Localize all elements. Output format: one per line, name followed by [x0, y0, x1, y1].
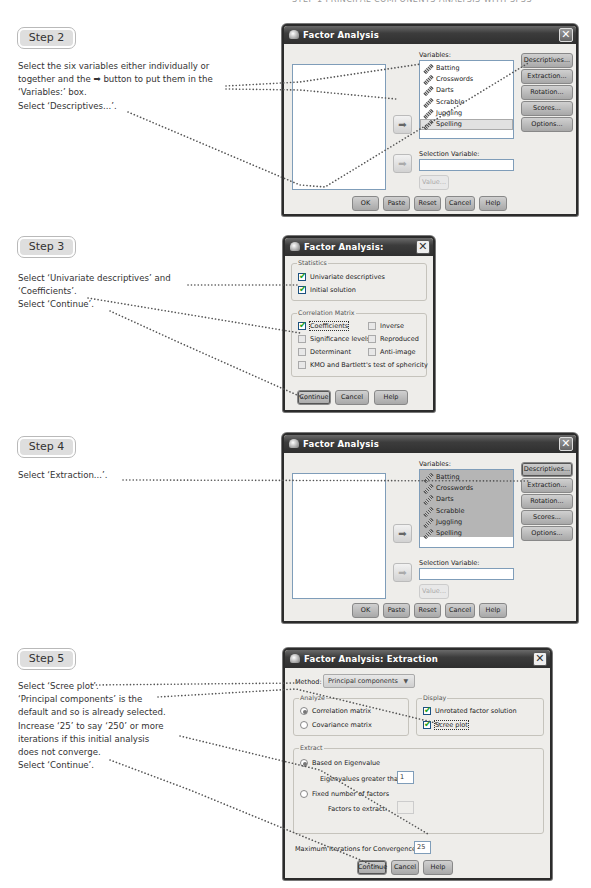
variables-list[interactable]: Batting Crosswords Darts Scrabble Juggli…	[419, 60, 514, 139]
checkbox-checked-icon	[423, 707, 431, 715]
cancel-button[interactable]: Cancel	[445, 603, 475, 618]
arrow-right-icon: ➡	[398, 567, 406, 578]
selection-variable-field[interactable]	[419, 568, 514, 580]
reset-button[interactable]: Reset	[414, 603, 441, 618]
initial-solution-checkbox[interactable]: Initial solution	[298, 285, 356, 295]
list-item[interactable]: Scrabble	[420, 97, 513, 108]
selection-variable-field[interactable]	[419, 159, 514, 171]
app-icon	[289, 439, 299, 448]
close-icon[interactable]: ✕	[416, 240, 430, 254]
list-item[interactable]: Spelling	[420, 528, 513, 539]
rotation-button[interactable]: Rotation...	[521, 494, 573, 509]
cancel-button[interactable]: Cancel	[445, 196, 475, 211]
move-selection-variable-button[interactable]: ➡	[393, 563, 412, 582]
close-icon[interactable]: ✕	[533, 652, 547, 666]
based-on-eigenvalue-radio[interactable]: Based on Eigenvalue	[300, 758, 380, 768]
dialog-titlebar: Factor Analysis: Descriptives ✕	[285, 238, 433, 256]
ok-button[interactable]: OK	[352, 603, 379, 618]
scree-plot-checkbox[interactable]: Scree plot	[423, 720, 468, 730]
arrow-left-icon: ➡	[398, 528, 406, 539]
list-item[interactable]: Darts	[420, 85, 513, 96]
close-icon[interactable]: ✕	[559, 437, 573, 451]
reproduced-checkbox[interactable]: Reproduced	[368, 334, 419, 344]
list-item[interactable]: Juggling	[420, 517, 513, 528]
value-button[interactable]: Value...	[419, 175, 449, 190]
descriptives-button[interactable]: Descriptives...	[521, 53, 573, 68]
inverse-checkbox[interactable]: Inverse	[368, 321, 404, 331]
step-5-badge: Step 5	[17, 648, 76, 670]
list-item[interactable]: Batting	[420, 63, 513, 74]
factor-analysis-dialog: Factor Analysis ✕ ➡ Variables: Batting C…	[282, 24, 578, 216]
list-item[interactable]: Crosswords	[420, 483, 513, 494]
app-icon	[289, 30, 299, 39]
factors-to-extract-field[interactable]	[397, 801, 414, 814]
help-button[interactable]: Help	[479, 196, 507, 211]
list-item[interactable]: Scrabble	[420, 506, 513, 517]
unrotated-factor-solution-checkbox[interactable]: Unrotated factor solution	[423, 706, 517, 716]
scale-variable-icon	[423, 473, 434, 484]
move-to-variables-button[interactable]: ➡	[393, 524, 412, 543]
scores-button[interactable]: Scores...	[521, 101, 573, 116]
eigenvalues-label: Eigenvalues greater than:	[320, 775, 404, 783]
help-button[interactable]: Help	[479, 603, 507, 618]
descriptives-dialog: Factor Analysis: Descriptives ✕ Statisti…	[283, 236, 435, 412]
options-button[interactable]: Options...	[521, 117, 573, 132]
variables-label: Variables:	[419, 460, 451, 468]
dialog-titlebar: Factor Analysis ✕	[284, 435, 576, 453]
extraction-button[interactable]: Extraction...	[521, 478, 573, 493]
scale-variable-icon	[423, 506, 434, 517]
eigenvalues-field[interactable]: 1	[397, 771, 414, 784]
fixed-number-of-factors-radio[interactable]: Fixed number of factors	[300, 789, 389, 799]
options-button[interactable]: Options...	[521, 526, 573, 541]
list-item[interactable]: Spelling	[420, 119, 513, 130]
selection-variable-label: Selection Variable:	[419, 150, 480, 158]
covariance-matrix-radio[interactable]: Covariance matrix	[300, 720, 372, 730]
correlation-matrix-radio[interactable]: Correlation matrix	[300, 706, 371, 716]
statistics-group: Statistics Univariate descriptives Initi…	[291, 263, 427, 301]
ok-button[interactable]: OK	[352, 196, 379, 211]
extract-group: Extract Based on Eigenvalue Eigenvalues …	[293, 748, 544, 834]
move-selection-variable-button[interactable]: ➡	[393, 154, 412, 173]
checkbox-checked-icon	[298, 286, 306, 294]
list-item[interactable]: Darts	[420, 494, 513, 505]
step-3-badge: Step 3	[17, 236, 76, 258]
checkbox-checked-icon	[423, 721, 431, 729]
cancel-button[interactable]: Cancel	[391, 860, 419, 875]
variables-list[interactable]: Batting Crosswords Darts Scrabble Juggli…	[419, 469, 514, 548]
paste-button[interactable]: Paste	[383, 196, 410, 211]
determinant-checkbox[interactable]: Determinant	[298, 347, 351, 357]
source-variable-list[interactable]	[292, 64, 386, 190]
significance-levels-checkbox[interactable]: Significance levels	[298, 334, 370, 344]
continue-button[interactable]: Continue	[357, 860, 387, 875]
value-button[interactable]: Value...	[419, 584, 449, 599]
list-item[interactable]: Batting	[420, 472, 513, 483]
extraction-button[interactable]: Extraction...	[521, 69, 573, 84]
help-button[interactable]: Help	[374, 390, 408, 405]
continue-button[interactable]: Continue	[297, 390, 331, 405]
chevron-down-icon: ▼	[403, 675, 408, 687]
max-iterations-field[interactable]: 25	[414, 841, 431, 854]
close-icon[interactable]: ✕	[559, 28, 573, 42]
method-select[interactable]: Principal components ▼	[323, 674, 415, 688]
scale-variable-icon	[423, 75, 434, 86]
descriptives-button[interactable]: Descriptives...	[521, 462, 573, 477]
arrow-right-icon: ➡	[398, 119, 406, 130]
anti-image-checkbox[interactable]: Anti-image	[368, 347, 416, 357]
rotation-button[interactable]: Rotation...	[521, 85, 573, 100]
list-item[interactable]: Juggling	[420, 108, 513, 119]
checkbox-unchecked-icon	[368, 322, 376, 330]
running-head: STEP 1 PRINCIPAL COMPONENTS ANALYSIS WIT…	[292, 0, 572, 4]
move-to-variables-button[interactable]: ➡	[393, 115, 412, 134]
scores-button[interactable]: Scores...	[521, 510, 573, 525]
reset-button[interactable]: Reset	[414, 196, 441, 211]
coefficients-checkbox[interactable]: Coefficients	[298, 321, 348, 331]
help-button[interactable]: Help	[423, 860, 453, 875]
univariate-descriptives-checkbox[interactable]: Univariate descriptives	[298, 272, 385, 282]
list-item[interactable]: Crosswords	[420, 74, 513, 85]
cancel-button[interactable]: Cancel	[335, 390, 369, 405]
kmo-bartlett-checkbox[interactable]: KMO and Bartlett's test of sphericity	[298, 360, 428, 370]
source-variable-list[interactable]	[292, 473, 386, 599]
paste-button[interactable]: Paste	[383, 603, 410, 618]
correlation-matrix-group: Correlation Matrix Coefficients Inverse …	[291, 313, 427, 377]
step-3-instructions: Select ‘Univariate descriptives’ and ‘Co…	[18, 272, 258, 312]
